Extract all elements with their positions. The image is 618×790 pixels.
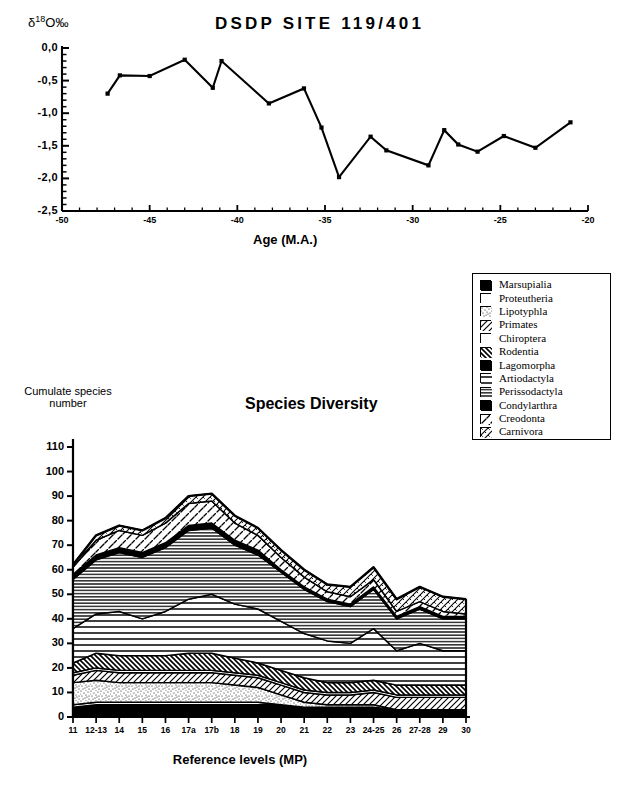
diversity-x-tick: 16 (161, 725, 170, 735)
diversity-x-tick: 30 (461, 725, 470, 735)
legend-swatch-proteutheria (480, 293, 491, 303)
legend-item[interactable]: Creodonta (480, 412, 610, 425)
isotope-x-tick: -40 (231, 215, 244, 225)
legend-swatch-rodentia (480, 347, 491, 357)
legend-item-label: Creodonta (499, 413, 545, 424)
diversity-band-rodentia (73, 653, 466, 695)
diversity-y-tick: 0 (58, 710, 64, 722)
figure-page: DSDP SITE 119/401 δ18O‰ 0,0-0,5-1,0-1,5-… (0, 0, 618, 790)
isotope-y-tick: 0,0 (42, 41, 59, 53)
diversity-y-tick: 110 (46, 440, 64, 452)
diversity-x-tick: 26 (392, 725, 401, 735)
legend-item-label: Marsupialia (499, 279, 552, 290)
diversity-y-axis-label-line2: number (18, 397, 118, 409)
isotope-x-tick: -20 (581, 215, 594, 225)
diversity-y-axis-label-line1: Cumulate species (18, 385, 118, 397)
legend-item-label: Chiroptera (499, 333, 546, 344)
diversity-y-tick: 10 (52, 685, 64, 697)
isotope-y-tick: -1,5 (37, 139, 58, 151)
legend-swatch-perissodactyla (480, 387, 491, 397)
diversity-band-lagomorpha (73, 653, 466, 685)
legend-item[interactable]: Perissodactyla (480, 385, 610, 398)
diversity-x-tick: 15 (138, 725, 147, 735)
isotope-x-tick: -45 (143, 215, 156, 225)
legend-item[interactable]: Artiodactyla (480, 372, 610, 385)
diversity-y-tick: 30 (52, 636, 64, 648)
legend-swatch-condylarthra (480, 400, 491, 410)
legend-item[interactable]: Rodentia (480, 345, 610, 358)
isotope-x-tick: -50 (55, 215, 68, 225)
diversity-x-tick: 19 (253, 725, 262, 735)
legend-swatch-primates (480, 320, 491, 330)
diversity-x-tick: 11 (69, 725, 78, 735)
diversity-x-tick: 29 (438, 725, 447, 735)
legend-swatch-carnivora (480, 427, 491, 437)
legend-swatch-chiroptera (480, 333, 491, 343)
isotope-y-ticklabels: 0,0-0,5-1,0-1,5-2,0-2,5 (10, 0, 58, 230)
diversity-x-tick: 21 (299, 725, 308, 735)
diversity-band-creodonta (73, 501, 466, 616)
diversity-x-axis-label: Reference levels (MP) (0, 752, 480, 767)
isotope-x-axis-label: Age (M.A.) (253, 232, 317, 247)
diversity-y-tick: 100 (46, 465, 64, 477)
isotope-x-tick: -35 (318, 215, 331, 225)
legend-item[interactable]: Proteutheria (480, 291, 610, 304)
diversity-chart-title: Species Diversity (245, 395, 378, 413)
legend-item[interactable]: Condylarthra (480, 399, 610, 412)
isotope-plot-area (0, 0, 618, 258)
legend-item[interactable]: Primates (480, 318, 610, 331)
legend-swatch-creodonta (480, 414, 491, 424)
legend-swatch-artiodactyla (480, 373, 491, 383)
diversity-band-perissodactyla (73, 528, 466, 651)
diversity-band-proteutheria (73, 702, 466, 709)
isotope-x-tick: -30 (406, 215, 419, 225)
legend-item[interactable]: Chiroptera (480, 332, 610, 345)
diversity-y-tick: 20 (52, 661, 64, 673)
legend-item-label: Perissodactyla (499, 386, 563, 397)
diversity-band-primates (73, 670, 466, 709)
isotope-x-tick: -25 (494, 215, 507, 225)
isotope-chart-title: DSDP SITE 119/401 (215, 14, 424, 34)
legend-item-label: Proteutheria (499, 293, 553, 304)
isotope-chart: DSDP SITE 119/401 δ18O‰ 0,0-0,5-1,0-1,5-… (0, 0, 618, 258)
legend-item-label: Artiodactyla (499, 373, 554, 384)
legend-item-label: Carnivora (499, 426, 543, 437)
legend-item[interactable]: Lagomorpha (480, 358, 610, 371)
diversity-band-marsupialia (73, 705, 466, 717)
legend-item[interactable]: Carnivora (480, 425, 610, 438)
diversity-x-tick: 23 (346, 725, 355, 735)
diversity-x-tick: 14 (115, 725, 124, 735)
legend-swatch-marsupialia (480, 280, 491, 290)
isotope-y-tick: -1,0 (37, 106, 58, 118)
diversity-y-axis-label: Cumulate species number (18, 385, 118, 409)
legend-item-label: Rodentia (499, 346, 539, 357)
diversity-x-tick: 22 (323, 725, 332, 735)
diversity-y-ticklabels: 1101009080706050403020100 (16, 430, 64, 720)
legend-item-label: Lipotyphla (499, 306, 547, 317)
diversity-y-tick: 90 (52, 489, 64, 501)
diversity-band-condylarthra (73, 523, 466, 619)
legend-swatch-lagomorpha (480, 360, 491, 370)
diversity-y-tick: 50 (52, 587, 64, 599)
isotope-y-tick: -0,5 (37, 74, 58, 86)
diversity-x-tick: 12-13 (85, 725, 107, 735)
diversity-y-tick: 60 (52, 563, 64, 575)
isotope-y-tick: -2,0 (37, 171, 58, 183)
legend-item-label: Lagomorpha (499, 360, 555, 371)
diversity-y-tick: 70 (52, 538, 64, 550)
legend-swatch-lipotyphla (480, 306, 491, 316)
diversity-x-tick: 27-28 (409, 725, 431, 735)
diversity-x-tick: 18 (230, 725, 239, 735)
diversity-band-lipotyphla (73, 680, 466, 709)
legend-item[interactable]: Marsupialia (480, 278, 610, 291)
legend-item[interactable]: Lipotyphla (480, 305, 610, 318)
legend-item-label: Condylarthra (499, 400, 557, 411)
diversity-band-artiodactyla (73, 594, 466, 685)
species-legend: MarsupialiaProteutheriaLipotyphlaPrimate… (472, 273, 611, 440)
diversity-band-carnivora (73, 494, 466, 614)
diversity-x-tick: 17a (181, 725, 195, 735)
diversity-x-tick: 20 (276, 725, 285, 735)
diversity-x-tick: 24-25 (363, 725, 385, 735)
diversity-y-tick: 40 (52, 612, 64, 624)
diversity-band-chiroptera (73, 668, 466, 697)
